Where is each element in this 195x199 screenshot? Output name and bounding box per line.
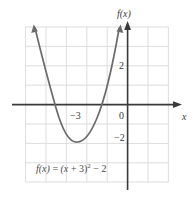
equation-minus: − — [93, 163, 99, 174]
y-axis-label: f(x) — [117, 9, 131, 19]
equation-plus: + — [71, 163, 77, 174]
x-tick-label-negative-3: −3 — [70, 111, 81, 121]
equation-exponent: 2 — [87, 162, 91, 170]
equation-open: (x — [61, 163, 69, 174]
graph-figure: f(x) x 2 −2 0 −3 f(x) = (x + 3)2 − 2 — [0, 0, 195, 199]
y-tick-label-negative-2: −2 — [114, 133, 125, 143]
y-tick-label-2: 2 — [119, 61, 124, 71]
equation-lhs: f(x) — [36, 163, 50, 174]
equation-offset: 2 — [101, 163, 106, 174]
equation-equals: = — [52, 163, 58, 174]
x-axis-label: x — [182, 112, 186, 122]
x-axis — [12, 101, 182, 108]
function-equation-label: f(x) = (x + 3)2 − 2 — [36, 163, 106, 174]
origin-label: 0 — [119, 111, 124, 121]
